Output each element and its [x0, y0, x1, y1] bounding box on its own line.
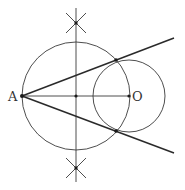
label-O: O	[132, 89, 143, 104]
point-tangent-lower	[114, 129, 118, 133]
point-midpoint-M	[74, 94, 77, 97]
point-A	[20, 94, 24, 98]
point-O	[127, 94, 130, 97]
tangent-construction-diagram: A O	[0, 0, 185, 190]
point-tangent-upper	[114, 58, 118, 62]
label-A: A	[7, 89, 18, 104]
